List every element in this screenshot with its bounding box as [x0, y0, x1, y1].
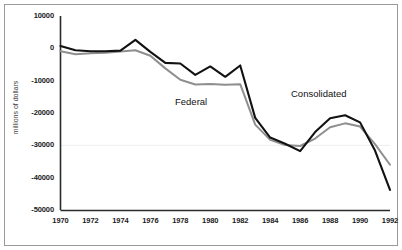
x-tick-label: 1992	[373, 216, 402, 225]
x-tick-label: 1978	[163, 216, 197, 225]
x-tick-label: 1986	[283, 216, 317, 225]
y-tick-label: 0	[12, 43, 54, 52]
x-tick-label: 1988	[313, 216, 347, 225]
chart-plot-area	[0, 0, 402, 250]
series-label-federal: Federal	[175, 96, 207, 107]
x-tick-label: 1972	[73, 216, 107, 225]
x-tick-label: 1980	[193, 216, 227, 225]
x-tick-label: 1984	[253, 216, 287, 225]
chart-figure: 100000-10000-20000-30000-40000-50000 197…	[0, 0, 402, 250]
x-tick-label: 1976	[133, 216, 167, 225]
series-label-consolidated: Consolidated	[291, 88, 346, 99]
y-tick-label: -40000	[12, 173, 54, 182]
axis-lines	[61, 16, 391, 211]
x-tick-label: 1974	[103, 216, 137, 225]
y-tick-label: -50000	[12, 205, 54, 214]
x-tick-label: 1990	[343, 216, 377, 225]
x-tick-label: 1970	[44, 216, 78, 225]
data-series-group	[61, 40, 391, 190]
y-tick-label: 10000	[12, 11, 54, 20]
x-tick-label: 1982	[223, 216, 257, 225]
series-line-federal	[61, 40, 391, 190]
y-axis-title: millions of dollars	[12, 53, 19, 163]
series-line-consolidated	[61, 50, 391, 164]
